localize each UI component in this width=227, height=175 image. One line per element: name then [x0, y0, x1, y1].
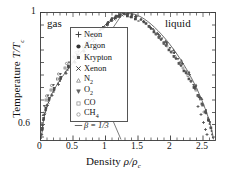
gas-region-label: gas [47, 17, 62, 29]
x-tick-label-0-5: 0.5 [66, 141, 78, 151]
legend-item-n2: N2 [73, 75, 127, 86]
legend-label-beta-fit: β = 1/3 [84, 120, 109, 131]
x-axis-subscript: c [138, 162, 141, 170]
legend-item-xenon: Xenon [73, 63, 127, 74]
triangle-down-icon [73, 88, 84, 95]
filled-circle-icon [73, 43, 84, 50]
x-axis-major-ticks [41, 136, 204, 141]
legend-label-krypton: Krypton [84, 52, 112, 63]
filled-square-icon [73, 54, 84, 61]
line-icon [73, 122, 84, 129]
legend-item-beta-fit: β = 1/3 [73, 120, 127, 131]
x-tick-label-2-5: 2.5 [196, 141, 208, 151]
open-circle-icon [73, 111, 84, 118]
data-points-liquid-branch [140, 19, 214, 139]
legend-label-neon: Neon [84, 29, 102, 40]
x-tick-label-2: 2 [167, 141, 172, 151]
legend-item-neon: Neon [73, 29, 127, 40]
coexistence-curve-figure: gas liquid 1 0.6 0 0.5 1 1.5 2 2.5 Densi… [0, 0, 227, 175]
y-axis-title: Temperature T/Tc [10, 14, 25, 144]
legend-item-argon: Argon [73, 40, 127, 51]
x-axis-title-word: Density [86, 155, 121, 167]
x-axis-symbol: ρ/ρ [124, 155, 138, 167]
cross-icon [73, 65, 84, 72]
legend-item-krypton: Krypton [73, 52, 127, 63]
legend-label-argon: Argon [84, 40, 105, 51]
triangle-up-icon [73, 77, 84, 84]
y-axis-title-word: Temperature [10, 61, 22, 118]
x-tick-label-1-5: 1.5 [131, 141, 143, 151]
open-square-icon [73, 100, 84, 107]
y-axis-symbol: T/T [10, 43, 22, 59]
x-tick-label-0: 0 [37, 141, 42, 151]
x-tick-label-1: 1 [102, 141, 107, 151]
legend-box: Neon Argon Krypton Xenon N2 [70, 27, 128, 122]
legend-item-ch4: CH4 [73, 109, 127, 120]
legend-item-co: CO [73, 97, 127, 108]
x-axis-title: Density ρ/ρc [0, 155, 227, 170]
y-tick-label-1: 1 [31, 6, 36, 16]
plus-icon [73, 31, 84, 38]
legend-item-o2: O2 [73, 86, 127, 97]
y-axis-subscript: c [18, 40, 26, 43]
liquid-region-label: liquid [165, 17, 191, 29]
